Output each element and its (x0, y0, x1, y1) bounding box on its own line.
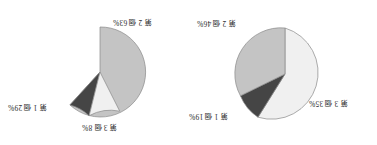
pie-right-slices (235, 28, 318, 119)
pie-right-label-item2: 第 2 個 46% (197, 20, 236, 27)
pie-left-label-item1: 第 1 個 29% (8, 104, 47, 111)
pie-left-label-item2: 第 2 個 63% (113, 19, 152, 26)
pie-chart-left: 第 1 個 29% 第 2 個 63% 第 3 個 8% (0, 0, 188, 145)
pie-chart-figure: 第 1 個 29% 第 2 個 63% 第 3 個 8% 第 1 個 19% 第… (0, 0, 377, 145)
pie-right-label-item3: 第 3 個 35% (309, 100, 348, 107)
pie-left-label-item3: 第 3 個 8% (82, 124, 117, 131)
pie-chart-right: 第 1 個 19% 第 2 個 46% 第 3 個 35% (189, 0, 377, 145)
pie-right-label-item1: 第 1 個 19% (189, 113, 228, 120)
pie-left-slices (70, 27, 146, 117)
